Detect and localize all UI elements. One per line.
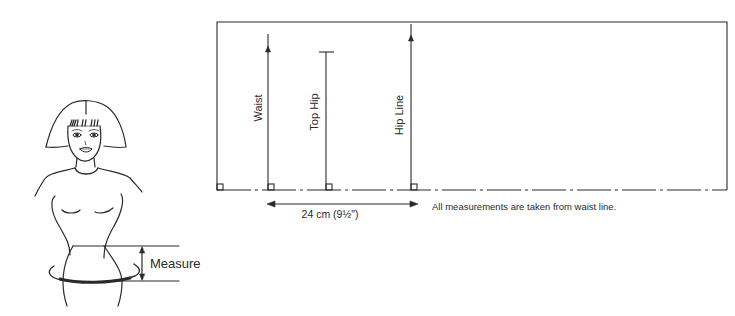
measure-label: Measure	[150, 256, 201, 271]
right-angle-marker	[268, 184, 274, 190]
hip-line-label: Hip Line	[393, 95, 405, 135]
waist-label: Waist	[252, 94, 264, 121]
neckline	[75, 168, 98, 174]
pattern-block	[217, 22, 727, 207]
bangs	[70, 120, 98, 126]
dimension-arrow-left-icon	[267, 201, 275, 207]
pattern-outline	[217, 22, 727, 190]
right-angle-marker	[326, 184, 332, 190]
left-shoulder	[35, 168, 75, 196]
dimension-label: 24 cm (9½")	[302, 208, 359, 220]
measurement-note: All measurements are taken from waist li…	[432, 201, 616, 212]
face-outline	[68, 126, 101, 161]
right-shoulder	[98, 168, 142, 192]
right-angle-marker	[217, 184, 223, 190]
dimension-arrow-right-icon	[410, 201, 418, 207]
right-angle-marker	[411, 184, 417, 190]
diagram-canvas: Measure Waist Top Hip Hip Line 24 cm (9½…	[0, 0, 735, 316]
waist-arrow-icon	[266, 46, 271, 52]
hip-line-arrow-icon	[409, 35, 414, 41]
top-hip-label: Top Hip	[308, 93, 320, 130]
dress-form-figure	[35, 101, 179, 306]
